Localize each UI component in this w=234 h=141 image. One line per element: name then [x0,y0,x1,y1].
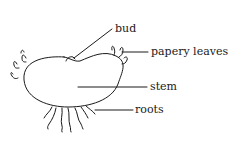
papery-leaf [14,61,19,68]
label-stem: stem [150,81,177,93]
label-papery-leaves: papery leaves [151,46,228,58]
stem-body [24,53,123,107]
stem-diagram: bud papery leaves stem roots [0,0,234,141]
root [44,107,52,118]
papery-leaf [22,55,26,62]
label-roots: roots [135,104,164,116]
root [81,107,88,118]
label-bud: bud [115,23,136,35]
root [61,108,62,132]
papery-leaf [11,73,18,79]
root [68,108,71,132]
root [86,106,95,114]
root [75,108,83,129]
papery-leaf [112,46,115,55]
papery-leaf [21,50,24,53]
